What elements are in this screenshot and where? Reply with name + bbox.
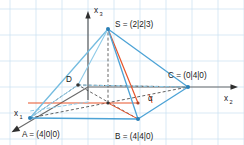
label-angle-alpha: α <box>148 94 153 103</box>
label-point-S: S = (2|2|3) <box>115 20 153 29</box>
vertex-C <box>186 85 190 89</box>
vertex-A <box>28 116 32 120</box>
label-point-B: B = (4|4|0) <box>115 132 153 141</box>
pyramid-diagram: S = (2|2|3) A = (4|0|0) B = (4|4|0) C = … <box>0 0 244 145</box>
label-axis-x2-sub: 2 <box>230 99 233 105</box>
label-axis-x1: x <box>14 109 18 118</box>
label-point-C: C = (0|4|0) <box>168 71 207 80</box>
label-axis-x3-sub: 3 <box>100 11 103 17</box>
vertex-D <box>76 83 80 87</box>
label-point-A: A = (4|0|0) <box>22 130 60 139</box>
label-axis-x1-sub: 1 <box>20 114 23 120</box>
label-point-D: D <box>66 75 72 84</box>
label-axis-x3: x <box>94 6 98 15</box>
vertex-S <box>106 27 110 31</box>
label-axis-x2: x <box>224 94 228 103</box>
vertex-B <box>136 117 140 121</box>
base-centre-point <box>106 101 109 104</box>
foot-point <box>136 101 139 104</box>
